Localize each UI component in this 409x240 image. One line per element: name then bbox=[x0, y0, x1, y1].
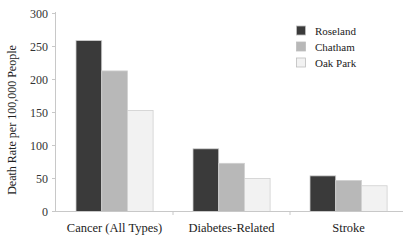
bar-oak-park bbox=[244, 179, 270, 212]
y-tick-label: 250 bbox=[30, 40, 48, 54]
y-tick-label: 200 bbox=[30, 73, 48, 87]
bar-chart: Death Rate per 100,000 People 0501001502… bbox=[0, 0, 409, 240]
legend-swatch bbox=[297, 58, 306, 67]
y-tick-label: 0 bbox=[42, 205, 48, 219]
bar-chatham bbox=[102, 71, 128, 212]
bar-oak-park bbox=[361, 186, 387, 212]
y-tick-label: 50 bbox=[36, 172, 48, 186]
bar-roseland bbox=[76, 41, 102, 212]
y-tick-label: 100 bbox=[30, 139, 48, 153]
y-axis-ticks: 050100150200250300 bbox=[30, 7, 56, 219]
x-axis-categories: Cancer (All Types)Diabetes-RelatedStroke bbox=[67, 212, 365, 236]
y-tick-label: 150 bbox=[30, 106, 48, 120]
x-category-label: Stroke bbox=[332, 221, 365, 235]
legend: RoselandChathamOak Park bbox=[297, 25, 357, 69]
x-category-label: Cancer (All Types) bbox=[67, 221, 162, 235]
bar-chatham bbox=[219, 163, 245, 211]
legend-swatch bbox=[297, 26, 306, 35]
y-tick-label: 300 bbox=[30, 7, 48, 21]
y-axis-label: Death Rate per 100,000 People bbox=[5, 45, 19, 195]
bar-chatham bbox=[336, 180, 362, 211]
legend-label: Oak Park bbox=[315, 57, 357, 69]
legend-label: Roseland bbox=[315, 25, 356, 37]
legend-swatch bbox=[297, 42, 306, 51]
bar-roseland bbox=[310, 176, 336, 212]
x-category-label: Diabetes-Related bbox=[189, 221, 276, 235]
bar-oak-park bbox=[127, 111, 153, 212]
bar-roseland bbox=[193, 149, 219, 212]
legend-label: Chatham bbox=[315, 41, 355, 53]
